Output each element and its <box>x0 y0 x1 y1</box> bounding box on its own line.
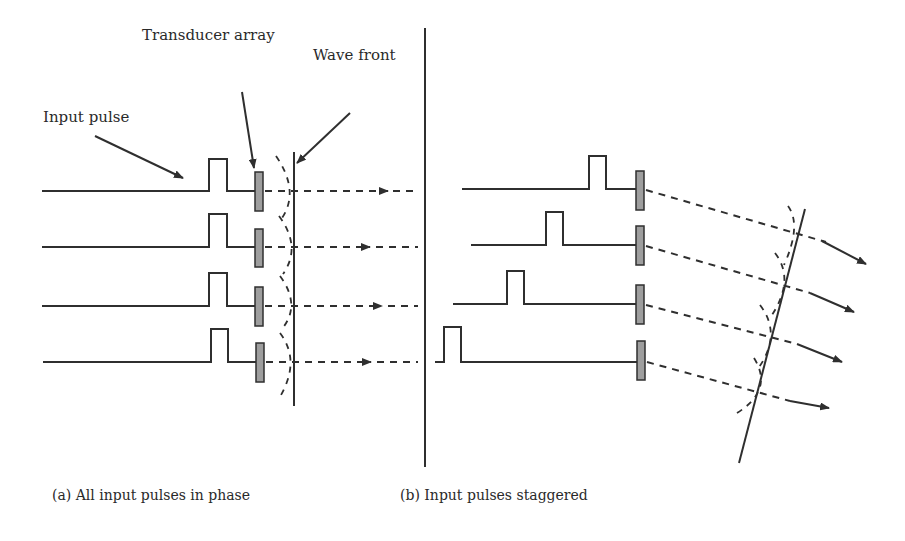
channel-a4 <box>43 329 418 382</box>
label-input-pulse: Input pulse <box>43 108 129 126</box>
transducer-element <box>255 287 263 326</box>
wave-front-arrow <box>297 113 350 163</box>
pulse-waveform <box>42 159 256 191</box>
wavelet-arc <box>757 305 771 370</box>
wavelet-arc <box>276 156 290 218</box>
wavelet-arc <box>280 276 291 330</box>
beam-arrow <box>810 293 854 312</box>
transducer-element <box>636 285 644 324</box>
beam-path <box>647 362 790 401</box>
panel-a: Transducer array Wave front Input pulse <box>42 26 418 406</box>
transducer-element <box>636 226 644 265</box>
wavelet-arc <box>737 358 761 413</box>
transducer-array-arrow <box>242 92 254 168</box>
beam-arrow <box>790 401 829 408</box>
beam-steering-diagram: Transducer array Wave front Input pulse <box>0 0 905 541</box>
panel-b <box>435 156 866 463</box>
transducer-element <box>636 171 644 210</box>
pulse-waveform <box>43 329 258 362</box>
pulse-waveform <box>453 271 637 304</box>
wavelet-arc <box>770 253 784 318</box>
channel-b3 <box>453 271 842 362</box>
channel-a3 <box>42 273 418 326</box>
label-transducer-array: Transducer array <box>142 26 275 44</box>
caption-panel-b: (b) Input pulses staggered <box>400 487 588 503</box>
channel-a2 <box>42 214 418 267</box>
transducer-element <box>256 343 264 382</box>
wave-front-line <box>739 209 805 463</box>
transducer-element <box>255 229 263 267</box>
beam-arrow <box>822 241 866 264</box>
transducer-element <box>255 172 263 211</box>
caption-panel-a: (a) All input pulses in phase <box>52 487 250 503</box>
beam-arrow <box>797 344 842 362</box>
channel-a1 <box>42 159 418 211</box>
pulse-waveform <box>435 327 638 362</box>
label-wave-front: Wave front <box>313 46 396 64</box>
pulse-waveform <box>471 212 637 245</box>
pulse-waveform <box>462 156 637 189</box>
wavelet-arc <box>279 216 292 274</box>
input-pulse-arrow <box>95 136 183 178</box>
pulse-waveform <box>42 273 256 306</box>
transducer-element <box>637 341 645 380</box>
channel-b2 <box>471 212 854 312</box>
wavelet-arc <box>278 333 291 400</box>
pulse-waveform <box>42 214 256 247</box>
